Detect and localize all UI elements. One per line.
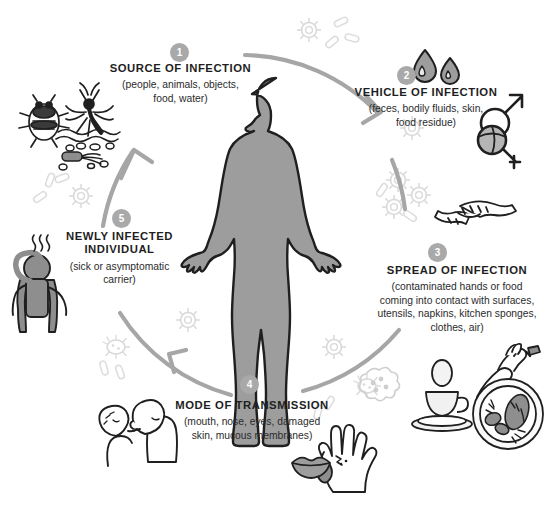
amoeba-icon: [360, 367, 400, 400]
sick-person-icon: [13, 253, 67, 332]
handshake-icon: [435, 201, 516, 224]
bedbug-icon: [19, 95, 69, 147]
bacteria-icon: [59, 143, 114, 170]
food-plate-icon: [473, 379, 543, 449]
egg-icon: [432, 360, 452, 386]
teacup-icon: [412, 392, 472, 431]
gender-symbols-icon: [478, 95, 522, 168]
fever-waves-icon: [33, 235, 50, 251]
mosquito-icon: [66, 83, 113, 136]
icon-art-layer: [0, 0, 553, 506]
infection-cycle-diagram: 1 SOURCE OF INFECTION (people, animals, …: [0, 0, 553, 506]
kissing-couple-icon: [99, 400, 177, 466]
water-droplets-icon: [414, 50, 459, 84]
wounded-hand-icon: [318, 425, 376, 492]
